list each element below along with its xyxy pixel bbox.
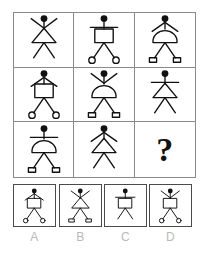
matrix-cell-r2c1[interactable] bbox=[14, 68, 74, 123]
matrix-cell-r2c2[interactable] bbox=[74, 68, 134, 123]
stick-figure-r2c3 bbox=[145, 68, 185, 121]
matrix-cell-r2c3[interactable] bbox=[135, 68, 195, 123]
stick-figure-r1c2 bbox=[84, 13, 124, 66]
matrix-cell-r1c3[interactable] bbox=[135, 13, 195, 68]
matrix-cell-r1c1[interactable] bbox=[14, 13, 74, 68]
option-labels: A B C D bbox=[13, 230, 203, 250]
stick-figure-option-a bbox=[20, 187, 49, 225]
stick-figure-r2c1 bbox=[24, 68, 64, 121]
option-label-b: B bbox=[59, 230, 102, 244]
option-d[interactable] bbox=[149, 184, 192, 227]
option-label-c: C bbox=[104, 230, 147, 244]
stick-figure-option-d bbox=[156, 187, 185, 225]
stick-figure-option-c bbox=[111, 187, 140, 225]
option-c[interactable] bbox=[104, 184, 147, 227]
option-a[interactable] bbox=[13, 184, 56, 227]
answer-options bbox=[13, 184, 203, 227]
matrix-grid: ? bbox=[13, 12, 196, 178]
analogy-puzzle: ? A B C D bbox=[0, 0, 209, 257]
stick-figure-r3c1 bbox=[24, 123, 64, 176]
matrix-cell-r3c3-question[interactable]: ? bbox=[135, 122, 195, 177]
option-label-a: A bbox=[13, 230, 56, 244]
stick-figure-r1c3 bbox=[145, 13, 185, 66]
option-label-d: D bbox=[149, 230, 192, 244]
stick-figure-r2c2 bbox=[84, 68, 124, 121]
matrix-cell-r1c2[interactable] bbox=[74, 13, 134, 68]
stick-figure-r3c2 bbox=[84, 123, 124, 176]
question-mark: ? bbox=[156, 133, 173, 167]
matrix-cell-r3c2[interactable] bbox=[74, 122, 134, 177]
stick-figure-option-b bbox=[66, 187, 95, 225]
stick-figure-r1c1 bbox=[24, 13, 64, 66]
option-b[interactable] bbox=[59, 184, 102, 227]
matrix-cell-r3c1[interactable] bbox=[14, 122, 74, 177]
